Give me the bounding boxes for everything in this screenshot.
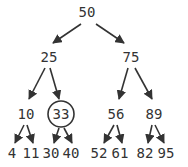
arrow-edge-n33-to-n40 (64, 128, 72, 143)
arrow-edge-n50-to-n25 (53, 24, 81, 43)
node-label: 30 (43, 145, 60, 161)
tree-node-30: 30 (43, 145, 60, 161)
node-label: 52 (91, 145, 108, 161)
node-label: 33 (53, 106, 70, 122)
tree-node-40: 40 (63, 145, 80, 161)
node-label: 40 (63, 145, 80, 161)
arrow-edge-n33-to-n30 (54, 128, 59, 143)
edge-layer (15, 24, 164, 143)
tree-node-89: 89 (146, 106, 163, 122)
binary-tree-diagram: 50257510335689411304052618295 (0, 0, 188, 167)
tree-node-95: 95 (158, 145, 175, 161)
tree-node-82: 82 (137, 145, 154, 161)
tree-node-11: 11 (23, 145, 40, 161)
arrow-edge-n75-to-n89 (135, 68, 152, 99)
node-label: 61 (112, 145, 129, 161)
node-label: 82 (137, 145, 154, 161)
tree-node-61: 61 (112, 145, 129, 161)
tree-node-4: 4 (8, 145, 16, 161)
arrow-edge-n50-to-n75 (96, 24, 124, 43)
arrow-edge-n56-to-n52 (104, 125, 114, 143)
node-label: 4 (8, 145, 16, 161)
tree-node-75: 75 (123, 49, 140, 65)
arrow-edge-n25-to-n10 (29, 68, 45, 99)
arrow-edge-n89-to-n82 (148, 125, 152, 143)
tree-node-56: 56 (108, 106, 125, 122)
node-label: 50 (79, 4, 96, 20)
tree-node-33: 33 (48, 101, 74, 127)
arrow-edge-n89-to-n95 (155, 125, 164, 143)
tree-node-50: 50 (79, 4, 96, 20)
arrow-edge-n10-to-n11 (27, 125, 33, 143)
node-label: 56 (108, 106, 125, 122)
arrow-edge-n75-to-n56 (119, 68, 128, 99)
tree-node-52: 52 (91, 145, 108, 161)
node-label: 25 (41, 49, 58, 65)
tree-node-10: 10 (18, 106, 35, 122)
node-label: 95 (158, 145, 175, 161)
node-label: 75 (123, 49, 140, 65)
node-label: 89 (146, 106, 163, 122)
node-label: 10 (18, 106, 35, 122)
arrow-edge-n25-to-n33 (50, 68, 59, 99)
tree-node-25: 25 (41, 49, 58, 65)
arrow-edge-n10-to-n4 (15, 125, 24, 143)
node-label: 11 (23, 145, 40, 161)
arrow-edge-n56-to-n61 (117, 125, 122, 143)
